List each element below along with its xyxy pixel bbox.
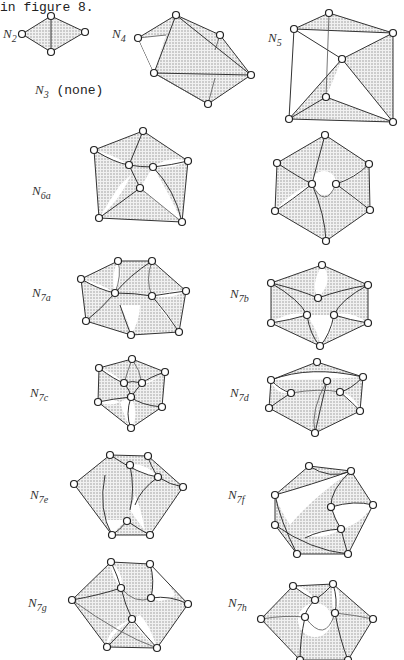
figure-n7h: [210, 555, 404, 660]
figure-n6b: [220, 120, 404, 250]
figure-n7d: [210, 350, 404, 450]
figure-n7b: [210, 250, 404, 360]
figure-n4: [100, 0, 260, 110]
figure-label-n3: N3 (none): [35, 82, 103, 100]
figure-n7f: [210, 450, 404, 560]
figure-n2: [0, 0, 100, 60]
figure-n7a: [0, 255, 210, 365]
figure-n6a: [80, 125, 210, 235]
figure-n7g: [0, 555, 210, 660]
figure-n7c: [0, 355, 210, 455]
figure-n7e: [0, 450, 210, 560]
figure-n5: [260, 0, 404, 130]
figure-label-n6a: N6a: [32, 183, 51, 201]
